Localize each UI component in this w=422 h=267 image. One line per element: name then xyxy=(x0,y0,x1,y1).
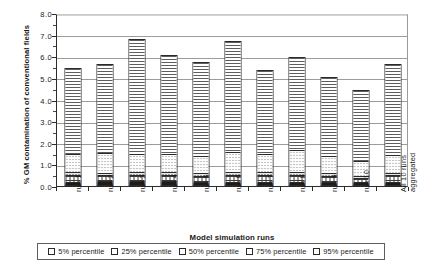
y-axis-tick xyxy=(52,101,56,102)
legend-item: 50% percentile xyxy=(179,247,239,256)
bar-segment xyxy=(386,65,401,156)
x-axis-tick xyxy=(184,187,185,191)
legend-label: 25% percentile xyxy=(121,247,171,256)
x-axis-tick xyxy=(408,187,409,191)
bar-group xyxy=(153,15,185,186)
legend-swatch-icon xyxy=(313,248,320,255)
y-axis-minor-tick xyxy=(53,133,56,134)
x-axis-tick xyxy=(312,187,313,191)
y-axis-minor-tick xyxy=(53,68,56,69)
x-axis-tick xyxy=(120,187,121,191)
y-axis-tick xyxy=(52,79,56,80)
y-axis-tick-label: 8.0 xyxy=(18,10,52,19)
bar-group xyxy=(89,15,121,186)
y-axis-tick-label: 3.0 xyxy=(18,118,52,127)
y-axis-tick xyxy=(52,36,56,37)
y-axis-tick xyxy=(52,165,56,166)
x-axis-tick xyxy=(152,187,153,191)
bar-group xyxy=(185,15,217,186)
y-axis-tick-label: 6.0 xyxy=(18,53,52,62)
legend-swatch-icon xyxy=(246,248,253,255)
y-axis-tick xyxy=(52,122,56,123)
legend-item: 75% percentile xyxy=(246,247,306,256)
bar-group xyxy=(281,15,313,186)
legend-swatch-icon xyxy=(111,248,118,255)
x-axis-tick xyxy=(344,187,345,191)
bar-group xyxy=(121,15,153,186)
y-axis-minor-tick xyxy=(53,46,56,47)
x-axis-tick-label: All 10 runs aggregated xyxy=(400,132,417,192)
y-axis-tick-label: 4.0 xyxy=(18,96,52,105)
y-axis-minor-tick xyxy=(53,25,56,26)
chart-legend: 5% percentile25% percentile50% percentil… xyxy=(37,243,385,260)
y-axis-tick-label: 5.0 xyxy=(18,74,52,83)
x-axis-tick-label: run 8 xyxy=(299,132,308,192)
y-axis-tick-label: 1.0 xyxy=(18,161,52,170)
x-axis-tick xyxy=(376,187,377,191)
x-axis-tick-label: run 6 xyxy=(235,132,244,192)
x-axis-tick-label: run 1 xyxy=(75,132,84,192)
x-axis-tick xyxy=(248,187,249,191)
y-axis-tick xyxy=(52,57,56,58)
bar-group xyxy=(249,15,281,186)
y-axis-tick-label: 0.0 xyxy=(18,183,52,192)
x-axis-tick-label: run 5 xyxy=(203,132,212,192)
x-axis-tick xyxy=(280,187,281,191)
y-axis-minor-tick xyxy=(53,176,56,177)
stacked-bar-chart: % GM contamination of conventional field… xyxy=(0,0,422,267)
legend-swatch-icon xyxy=(48,248,55,255)
bar-group xyxy=(313,15,345,186)
legend-label: 75% percentile xyxy=(256,247,306,256)
x-axis-tick xyxy=(56,187,57,191)
y-axis-tick-label: 2.0 xyxy=(18,139,52,148)
x-axis-tick-label: run 10 xyxy=(363,132,372,192)
x-axis-tick xyxy=(216,187,217,191)
bar-group xyxy=(217,15,249,186)
x-axis-tick-label: run 2 xyxy=(107,132,116,192)
y-axis-minor-tick xyxy=(53,111,56,112)
x-axis-title: Model simulation runs xyxy=(56,233,408,242)
bar-group xyxy=(57,15,89,186)
x-axis-tick-label: run 9 xyxy=(331,132,340,192)
y-axis-tick-label: 7.0 xyxy=(18,31,52,40)
y-axis-minor-tick xyxy=(53,90,56,91)
y-axis-tick xyxy=(52,144,56,145)
x-axis-tick-label: run 7 xyxy=(267,132,276,192)
legend-label: 5% percentile xyxy=(58,247,104,256)
bar-group xyxy=(345,15,377,186)
x-axis-tick-label: run 4 xyxy=(171,132,180,192)
x-axis-tick xyxy=(88,187,89,191)
x-axis-tick-label: run 3 xyxy=(139,132,148,192)
legend-item: 95% percentile xyxy=(313,247,373,256)
legend-swatch-icon xyxy=(179,248,186,255)
y-axis-tick xyxy=(52,14,56,15)
legend-label: 50% percentile xyxy=(189,247,239,256)
legend-label: 95% percentile xyxy=(323,247,373,256)
legend-item: 25% percentile xyxy=(111,247,171,256)
y-axis-minor-tick xyxy=(53,155,56,156)
legend-item: 5% percentile xyxy=(48,247,104,256)
